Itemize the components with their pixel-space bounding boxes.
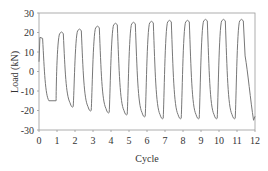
y-tick-label: 30 [24, 8, 34, 19]
x-tick-label: 2 [73, 135, 78, 146]
x-tick-label: 6 [145, 135, 150, 146]
x-tick-label: 4 [109, 135, 114, 146]
y-tick-label: -20 [21, 105, 34, 116]
y-tick-label: 10 [24, 47, 34, 58]
y-axis-ticks: -30-20-100102030 [21, 8, 39, 136]
load-cycle-chart: -30-20-100102030 0123456789101112 Load (… [0, 0, 268, 171]
x-tick-label: 0 [37, 135, 42, 146]
x-axis-ticks: 0123456789101112 [37, 130, 261, 146]
y-tick-label: -30 [21, 125, 34, 136]
x-tick-label: 7 [163, 135, 168, 146]
x-tick-label: 11 [232, 135, 242, 146]
x-tick-label: 1 [55, 135, 60, 146]
y-tick-label: 0 [29, 66, 34, 77]
x-tick-label: 5 [127, 135, 132, 146]
x-tick-label: 10 [214, 135, 224, 146]
y-tick-label: -10 [21, 86, 34, 97]
x-tick-label: 9 [199, 135, 204, 146]
y-axis-title: Load (kN) [9, 51, 21, 93]
y-tick-label: 20 [24, 27, 34, 38]
x-tick-label: 3 [91, 135, 96, 146]
x-tick-label: 12 [250, 135, 260, 146]
x-axis-title: Cycle [135, 153, 159, 164]
load-series-line [39, 19, 255, 120]
x-tick-label: 8 [181, 135, 186, 146]
